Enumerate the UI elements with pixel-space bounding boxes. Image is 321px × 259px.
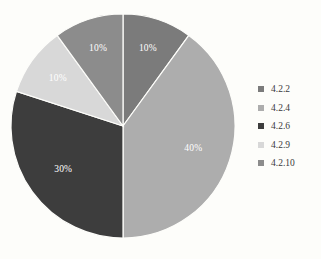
legend-swatch-icon [258, 123, 264, 129]
legend-item[interactable]: 4.2.6 [258, 121, 318, 131]
chart-legend: 4.2.2 4.2.4 4.2.6 4.2.9 4.2.10 [258, 84, 318, 168]
pie-svg: 10%40%30%10%10% [0, 0, 246, 259]
legend-item-label: 4.2.6 [271, 121, 290, 131]
legend-item-label: 4.2.2 [271, 84, 290, 94]
pie-slice-label: 30% [54, 164, 72, 174]
pie-plot-area: 10%40%30%10%10% [0, 0, 246, 259]
legend-item[interactable]: 4.2.9 [258, 140, 318, 150]
legend-item[interactable]: 4.2.2 [258, 84, 318, 94]
pie-chart-figure: 10%40%30%10%10% 4.2.2 4.2.4 4.2.6 4.2.9 … [0, 0, 321, 259]
legend-item-label: 4.2.4 [271, 103, 290, 113]
pie-slice-label: 40% [184, 143, 202, 153]
pie-slice-group [11, 14, 235, 238]
pie-slice-label: 10% [89, 43, 107, 53]
legend-item[interactable]: 4.2.10 [258, 158, 318, 168]
legend-swatch-icon [258, 142, 264, 148]
legend-swatch-icon [258, 86, 264, 92]
pie-slice-label: 10% [49, 73, 67, 83]
legend-item-label: 4.2.9 [271, 140, 290, 150]
legend-item-label: 4.2.10 [271, 158, 295, 168]
pie-slice-label: 10% [139, 43, 157, 53]
legend-swatch-icon [258, 160, 264, 166]
legend-item[interactable]: 4.2.4 [258, 103, 318, 113]
legend-swatch-icon [258, 105, 264, 111]
